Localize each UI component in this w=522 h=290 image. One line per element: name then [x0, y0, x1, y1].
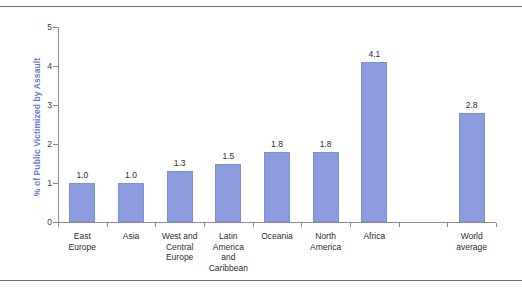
x-axis-category-label: Africa [342, 231, 406, 242]
frame-rule-bottom [0, 280, 522, 281]
x-axis-tick [107, 223, 108, 227]
y-axis-tick-label: 2 [28, 139, 52, 149]
bar [361, 62, 387, 222]
x-axis-tick [155, 223, 156, 227]
bar [69, 183, 95, 222]
x-axis-tick [350, 223, 351, 227]
bar [264, 152, 290, 222]
y-axis-tick-label: 5 [28, 22, 52, 32]
x-axis-tick [253, 223, 254, 227]
plot-area [58, 27, 496, 222]
bar [313, 152, 339, 222]
x-axis-tick [301, 223, 302, 227]
bar-value-label: 1.3 [160, 158, 200, 168]
x-axis-tick [496, 223, 497, 227]
y-axis-tick-label: 4 [28, 61, 52, 71]
bar [215, 164, 241, 223]
x-axis-tick [399, 223, 400, 227]
frame-rule-top [0, 6, 522, 7]
y-axis-tick-label: 0 [28, 217, 52, 227]
bar-value-label: 1.5 [208, 151, 248, 161]
chart-figure: % of Public Victimized by Assault 012345… [0, 0, 522, 290]
x-axis-category-label: World average [440, 231, 504, 252]
y-axis-tick-label: 1 [28, 178, 52, 188]
bar-value-label: 4.1 [354, 49, 394, 59]
x-axis-tick [204, 223, 205, 227]
y-axis-tick-label: 3 [28, 100, 52, 110]
bar-value-label: 1.8 [257, 139, 297, 149]
x-axis-tick [58, 223, 59, 227]
bar [459, 113, 485, 222]
bar [167, 171, 193, 222]
bar-value-label: 2.8 [452, 100, 492, 110]
x-axis-line [58, 222, 496, 223]
bar-value-label: 1.8 [306, 139, 346, 149]
bar-value-label: 1.0 [111, 170, 151, 180]
bar [118, 183, 144, 222]
bar-value-label: 1.0 [62, 170, 102, 180]
x-axis-tick [447, 223, 448, 227]
